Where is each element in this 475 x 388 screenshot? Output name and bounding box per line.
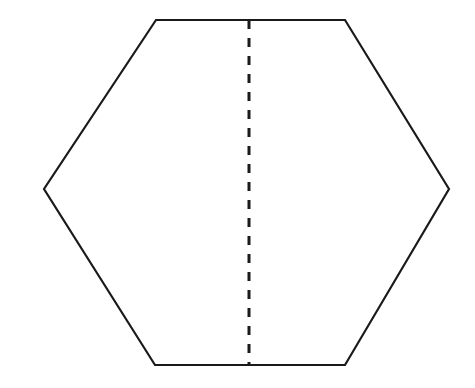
figure-background	[0, 0, 475, 388]
figure-canvas	[0, 0, 475, 388]
hexagon-symmetry-figure	[0, 0, 475, 388]
